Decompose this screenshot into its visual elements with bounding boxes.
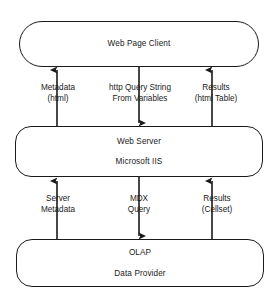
node-olap-title: OLAP xyxy=(129,247,151,258)
connector-label-results-html-line1: Results xyxy=(178,83,254,94)
node-web-page-client: Web Page Client xyxy=(19,21,259,67)
connector-label-results-cellset-line1: Results xyxy=(180,194,254,205)
connector-label-metadata: Metadata (html) xyxy=(18,83,98,105)
connector-label-mdx-query-line1: MDX xyxy=(104,194,174,205)
connector-label-server-metadata-line1: Server xyxy=(19,194,97,205)
node-web-server-title: Web Server xyxy=(117,136,161,147)
node-web-page-client-label: Web Page Client xyxy=(108,38,171,49)
node-web-server-subtitle: Microsoft IIS xyxy=(116,156,163,167)
connector-label-metadata-line1: Metadata xyxy=(18,83,98,94)
node-olap: OLAP Data Provider xyxy=(16,239,264,287)
connector-label-results-cellset: Results (Cellset) xyxy=(180,194,254,216)
connector-label-http-query: http Query String From Variables xyxy=(92,83,188,105)
connector-label-http-query-line2: From Variables xyxy=(92,94,188,105)
connector-label-mdx-query-line2: Query xyxy=(104,205,174,216)
node-web-server: Web Server Microsoft IIS xyxy=(15,126,263,177)
connector-label-http-query-line1: http Query String xyxy=(92,83,188,94)
connector-label-results-html-line2: (html Table) xyxy=(178,94,254,105)
node-olap-subtitle: Data Provider xyxy=(114,268,165,279)
connector-label-results-html: Results (html Table) xyxy=(178,83,254,105)
architecture-diagram: Web Page Client Web Server Microsoft IIS… xyxy=(0,0,277,299)
connector-label-server-metadata-line2: Metadata xyxy=(19,205,97,216)
connector-label-metadata-line2: (html) xyxy=(18,94,98,105)
connector-label-server-metadata: Server Metadata xyxy=(19,194,97,216)
connector-label-mdx-query: MDX Query xyxy=(104,194,174,216)
connector-label-results-cellset-line2: (Cellset) xyxy=(180,205,254,216)
